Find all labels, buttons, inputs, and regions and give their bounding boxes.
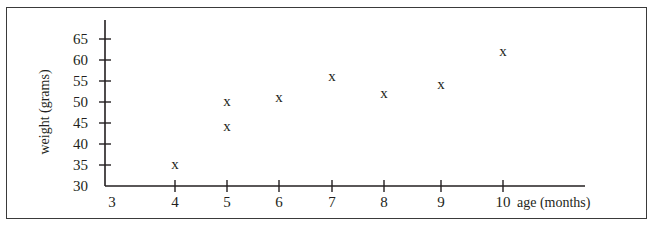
x-axis-ticks: 345678910 — [108, 180, 510, 210]
scatter-plot: 3035404550556065 345678910 xxxxxxxx weig… — [0, 0, 651, 225]
y-tick-label: 55 — [73, 73, 88, 89]
data-point-x-marker: x — [223, 118, 231, 134]
y-tick-label: 30 — [73, 178, 88, 194]
y-tick-label: 65 — [73, 31, 88, 47]
x-tick-label: 7 — [328, 194, 336, 210]
data-point-x-marker: x — [328, 68, 336, 84]
data-point-x-marker: x — [171, 156, 179, 172]
x-tick-label: 6 — [275, 194, 283, 210]
y-axis-label: weight (grams) — [37, 69, 53, 154]
data-point-x-marker: x — [499, 43, 507, 59]
y-tick-label: 40 — [73, 136, 88, 152]
y-tick-label: 45 — [73, 115, 88, 131]
y-tick-label: 50 — [73, 94, 88, 110]
x-tick-label: 3 — [108, 194, 116, 210]
data-point-x-marker: x — [437, 76, 445, 92]
data-point-x-marker: x — [380, 85, 388, 101]
x-tick-label: 5 — [223, 194, 231, 210]
x-tick-label: 8 — [380, 194, 388, 210]
x-axis-label: age (months) — [517, 195, 591, 211]
data-points: xxxxxxxx — [171, 43, 507, 172]
y-tick-label: 35 — [73, 157, 88, 173]
x-tick-label: 4 — [171, 194, 179, 210]
x-tick-label: 9 — [437, 194, 445, 210]
data-point-x-marker: x — [275, 89, 283, 105]
data-point-x-marker: x — [223, 93, 231, 109]
y-tick-label: 60 — [73, 52, 88, 68]
x-tick-label: 10 — [496, 194, 511, 210]
